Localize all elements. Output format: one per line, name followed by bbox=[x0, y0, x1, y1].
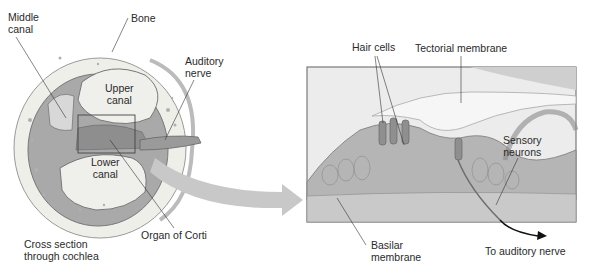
label-line: Cross section bbox=[24, 238, 99, 250]
label-line: Middle bbox=[8, 11, 39, 23]
label-line: Lower bbox=[91, 156, 120, 168]
label-line: neurons bbox=[503, 146, 542, 158]
label-lower-canal: Lower canal bbox=[91, 156, 120, 180]
label-auditory-nerve: Auditory nerve bbox=[185, 55, 224, 79]
label-line: canal bbox=[105, 94, 134, 106]
label-cross-section: Cross section through cochlea bbox=[24, 238, 99, 262]
label-hair-cells: Hair cells bbox=[352, 41, 395, 53]
label-organ-of-corti: Organ of Corti bbox=[141, 229, 207, 241]
label-sensory-neurons: Sensory neurons bbox=[503, 134, 542, 158]
label-line: Auditory bbox=[185, 55, 224, 67]
label-bone: Bone bbox=[131, 12, 156, 24]
label-line: through cochlea bbox=[24, 250, 99, 262]
label-line: nerve bbox=[185, 67, 224, 79]
label-basilar-membrane: Basilar membrane bbox=[371, 239, 421, 263]
label-to-auditory-nerve: To auditory nerve bbox=[485, 245, 566, 257]
label-tectorial-membrane: Tectorial membrane bbox=[415, 42, 507, 54]
label-line: Upper bbox=[105, 82, 134, 94]
label-upper-canal: Upper canal bbox=[105, 82, 134, 106]
label-line: membrane bbox=[371, 251, 421, 263]
label-line: canal bbox=[91, 168, 120, 180]
label-line: canal bbox=[8, 23, 39, 35]
label-middle-canal: Middle canal bbox=[8, 11, 39, 35]
label-line: Sensory bbox=[503, 134, 542, 146]
label-line: Basilar bbox=[371, 239, 421, 251]
